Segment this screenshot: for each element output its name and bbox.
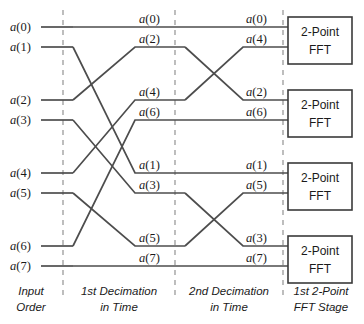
- fft-block-2-line2: FFT: [309, 189, 332, 203]
- first-decimation-labels: a(0) a(2) a(4) a(6) a(1) a(3) a(5) a(7): [139, 12, 160, 265]
- caption-0-line2: Order: [16, 301, 47, 313]
- caption-2-line2: in Time: [210, 301, 248, 313]
- fft-diagram: a(0) a(1) a(2) a(3) a(4) a(5) a(6) a(7) …: [0, 0, 364, 324]
- input-label-1: a(1): [10, 40, 31, 54]
- stage2-label-1: a(4): [246, 32, 267, 46]
- input-label-0: a(0): [10, 20, 31, 34]
- fft-block-3-line1: 2-Point: [301, 244, 340, 258]
- caption-1-line1: 1st Decimation: [81, 285, 157, 297]
- stage1-label-0: a(0): [139, 12, 160, 26]
- stage1-label-3: a(6): [139, 105, 160, 119]
- input-label-7: a(7): [10, 259, 31, 273]
- route-s2-r1: [185, 47, 288, 100]
- fft-block-1[interactable]: 2-Point FFT: [288, 90, 352, 137]
- stage2-label-4: a(1): [246, 158, 267, 172]
- fft-block-2[interactable]: 2-Point FFT: [288, 163, 352, 210]
- stage1-label-2: a(4): [139, 85, 160, 99]
- stage1-label-1: a(2): [139, 32, 160, 46]
- fft-block-3[interactable]: 2-Point FFT: [288, 236, 352, 283]
- caption-3-line1: 1st 2-Point: [294, 285, 350, 297]
- stage2-label-3: a(6): [246, 105, 267, 119]
- fft-block-2-line1: 2-Point: [301, 171, 340, 185]
- stage2-label-2: a(2): [246, 85, 267, 99]
- route-s2-r6: [185, 193, 288, 246]
- route-s2-r2: [185, 47, 288, 100]
- fft-block-3-line2: FFT: [309, 262, 332, 276]
- caption-3-line2: FFT Stage: [294, 301, 348, 313]
- stage1-label-5: a(3): [139, 178, 160, 192]
- fft-block-0-line1: 2-Point: [301, 25, 340, 39]
- input-segments: [41, 27, 73, 266]
- stage2-label-6: a(3): [246, 231, 267, 245]
- stage2-label-0: a(0): [246, 12, 267, 26]
- column-captions: Input Order 1st Decimation in Time 2nd D…: [16, 285, 349, 313]
- input-label-3: a(3): [10, 113, 31, 127]
- stage1-label-4: a(1): [139, 158, 160, 172]
- route-s1-a2: [73, 47, 185, 100]
- input-order-labels: a(0) a(1) a(2) a(3) a(4) a(5) a(6) a(7): [10, 20, 31, 273]
- fft-block-0[interactable]: 2-Point FFT: [288, 17, 352, 64]
- caption-0-line1: Input: [18, 285, 44, 297]
- second-decimation-labels: a(0) a(4) a(2) a(6) a(1) a(5) a(3) a(7): [246, 12, 267, 265]
- fft-block-1-line2: FFT: [309, 116, 332, 130]
- input-label-6: a(6): [10, 239, 31, 253]
- fft-diagram-canvas: a(0) a(1) a(2) a(3) a(4) a(5) a(6) a(7) …: [0, 0, 364, 324]
- stage2-label-7: a(7): [246, 251, 267, 265]
- caption-1-line2: in Time: [100, 301, 138, 313]
- route-s2-r5: [185, 193, 288, 246]
- input-label-4: a(4): [10, 166, 31, 180]
- stage1-label-7: a(7): [139, 251, 160, 265]
- second-decimation-routing: [185, 27, 288, 266]
- first-decimation-routing: [73, 27, 185, 266]
- stage2-label-5: a(5): [246, 178, 267, 192]
- input-label-2: a(2): [10, 93, 31, 107]
- fft-block-1-line1: 2-Point: [301, 98, 340, 112]
- route-s1-a5: [73, 193, 185, 246]
- fft-block-0-line2: FFT: [309, 43, 332, 57]
- stage1-label-6: a(5): [139, 231, 160, 245]
- caption-2-line1: 2nd Decimation: [188, 285, 269, 297]
- input-label-5: a(5): [10, 186, 31, 200]
